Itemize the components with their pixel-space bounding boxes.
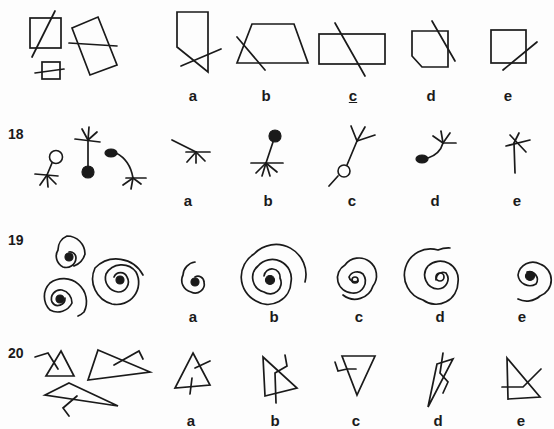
- row20-option-b-figure[interactable]: [263, 355, 297, 403]
- row20-option-b-label[interactable]: b: [265, 412, 285, 429]
- row1-option-c-label-underlined[interactable]: c: [343, 87, 363, 104]
- row1-option-a-figure[interactable]: [177, 12, 221, 72]
- row18-option-a-label[interactable]: a: [178, 192, 198, 209]
- row20-option-e-label[interactable]: e: [511, 412, 531, 429]
- row18-option-c-figure[interactable]: [329, 126, 375, 186]
- row18-option-d-label[interactable]: d: [425, 192, 445, 209]
- row19-option-c-figure[interactable]: [337, 258, 376, 299]
- row1-option-b-figure[interactable]: [237, 24, 308, 70]
- row19-option-d-label[interactable]: d: [430, 308, 450, 325]
- item-number-18: 18: [8, 126, 24, 142]
- row20-option-c-figure[interactable]: [335, 356, 375, 395]
- row19-option-e-figure[interactable]: [518, 262, 551, 301]
- row20-option-d-figure[interactable]: [428, 353, 453, 407]
- item-number-19: 19: [8, 232, 24, 248]
- row20-option-a-label[interactable]: a: [181, 412, 201, 429]
- row20-option-e-figure[interactable]: [502, 358, 541, 399]
- row19-option-a-figure[interactable]: [182, 262, 204, 293]
- row19-option-b-label[interactable]: b: [264, 308, 284, 325]
- row19-option-d-figure[interactable]: [404, 248, 458, 304]
- row1-option-d-label[interactable]: d: [421, 87, 441, 104]
- row20-option-a-figure[interactable]: [175, 353, 210, 394]
- row19-option-c-label[interactable]: c: [349, 308, 369, 325]
- row20-option-d-label[interactable]: d: [428, 412, 448, 429]
- row18-option-d-figure[interactable]: [416, 131, 456, 163]
- row18-option-b-label[interactable]: b: [258, 192, 278, 209]
- row1-option-c-figure[interactable]: [319, 23, 385, 76]
- row1-option-b-label[interactable]: b: [256, 87, 276, 104]
- row1-option-d-figure[interactable]: [412, 21, 455, 67]
- row20-reference-group: [35, 350, 150, 416]
- row1-option-a-label[interactable]: a: [183, 87, 203, 104]
- row18-option-c-label[interactable]: c: [342, 192, 362, 209]
- row20-option-c-label[interactable]: c: [346, 412, 366, 429]
- row19-option-e-label[interactable]: e: [512, 308, 532, 325]
- item-number-20: 20: [8, 345, 24, 361]
- row18-option-e-figure[interactable]: [506, 133, 530, 173]
- row1-option-e-label[interactable]: e: [498, 87, 518, 104]
- row1-option-e-figure[interactable]: [491, 30, 537, 70]
- row19-option-a-label[interactable]: a: [183, 308, 203, 325]
- row18-reference-group: [35, 127, 146, 189]
- row19-reference-group: [44, 236, 143, 316]
- row1-reference-group: [30, 11, 117, 79]
- row18-option-b-figure[interactable]: [251, 130, 283, 176]
- row19-option-b-figure[interactable]: [241, 244, 306, 304]
- row18-option-a-figure[interactable]: [172, 140, 210, 163]
- test-figures: [0, 0, 554, 429]
- row18-option-e-label[interactable]: e: [507, 192, 527, 209]
